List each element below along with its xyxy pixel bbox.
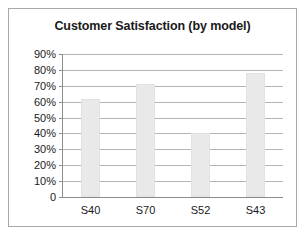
y-axis-tick-label: 0: [50, 191, 56, 203]
y-axis-tick-label: 40%: [34, 127, 56, 139]
y-axis-tick-label: 10%: [34, 175, 56, 187]
x-axis-label-S43: S43: [246, 204, 266, 216]
y-axis-tick: [59, 197, 63, 198]
bar-series: [63, 54, 283, 197]
plot-area: 010%20%30%40%50%60%70%80%90% S40S70S52S4…: [63, 54, 283, 197]
bar-S40[interactable]: [81, 99, 100, 198]
chart-frame: Customer Satisfaction (by model) 010%20%…: [8, 8, 297, 227]
y-axis-tick-label: 30%: [34, 143, 56, 155]
chart-title: Customer Satisfaction (by model): [9, 19, 296, 33]
x-axis-label-S40: S40: [81, 204, 101, 216]
y-axis-tick-label: 90%: [34, 48, 56, 60]
y-axis-tick-label: 20%: [34, 159, 56, 171]
y-axis-tick-label: 70%: [34, 80, 56, 92]
bar-S43[interactable]: [246, 73, 265, 197]
y-axis-tick-label: 80%: [34, 64, 56, 76]
y-axis-tick-label: 60%: [34, 96, 56, 108]
x-axis-label-S70: S70: [136, 204, 156, 216]
bar-S52[interactable]: [191, 133, 210, 197]
y-axis-tick-label: 50%: [34, 112, 56, 124]
bar-S70[interactable]: [136, 84, 155, 197]
axis-baseline: [63, 197, 283, 198]
x-axis-label-S52: S52: [191, 204, 211, 216]
